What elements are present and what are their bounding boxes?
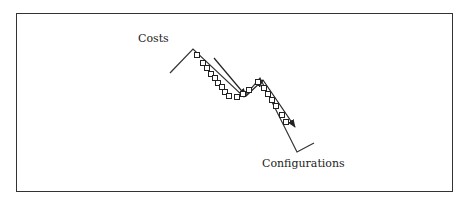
configurations-axis-label: Configurations	[262, 157, 345, 170]
search-step-marker	[280, 113, 285, 118]
search-step-marker	[256, 80, 261, 85]
search-step-marker	[266, 92, 271, 97]
search-step-marker	[220, 85, 225, 90]
search-step-marker	[205, 66, 210, 71]
search-step-marker	[201, 61, 206, 66]
search-step-marker	[195, 53, 200, 58]
search-step-marker	[270, 98, 275, 103]
search-step-marker	[227, 94, 232, 99]
search-step-marker	[241, 92, 246, 97]
search-arrow	[214, 58, 246, 96]
search-step-marker	[284, 120, 289, 125]
search-step-marker	[247, 88, 252, 93]
cost-curve-line	[170, 49, 314, 152]
search-step-marker	[213, 76, 218, 81]
costs-axis-label: Costs	[138, 32, 169, 45]
search-step-marker	[262, 86, 267, 91]
search-step-marker	[274, 104, 279, 109]
search-step-marker	[235, 95, 240, 100]
cost-landscape-diagram	[0, 0, 470, 202]
